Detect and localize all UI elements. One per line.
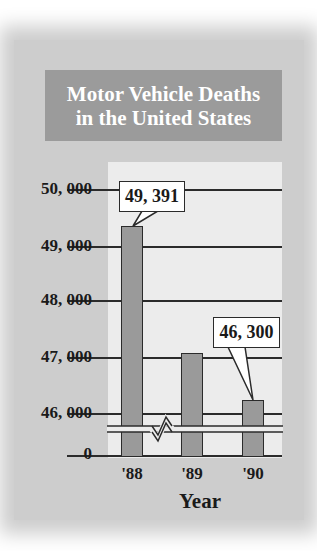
x-axis-label: Year [160,489,240,514]
xtick-89: '89 [172,464,212,484]
callout-1990: 46, 300 [213,317,280,348]
xtick-88: '88 [112,464,152,484]
callout-1988: 49, 391 [119,181,185,212]
xtick-90: '90 [233,464,273,484]
